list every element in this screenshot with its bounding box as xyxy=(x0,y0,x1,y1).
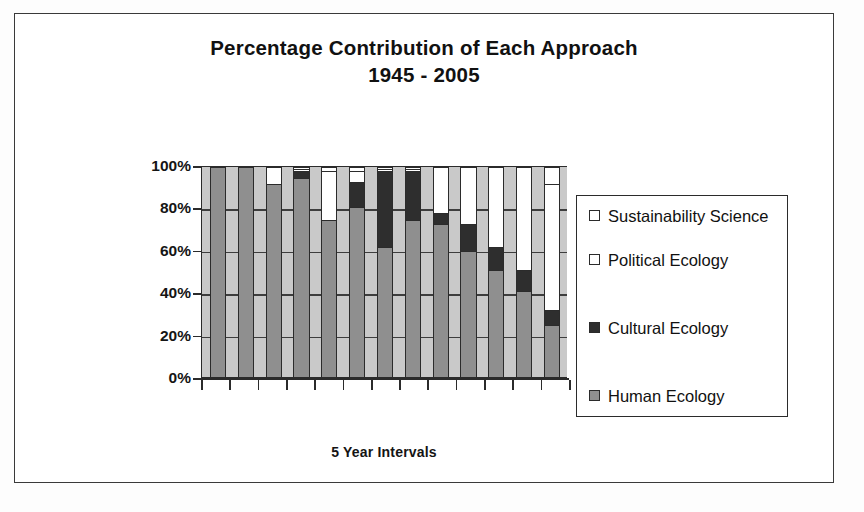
bar-segment-political xyxy=(545,184,559,310)
x-axis-tick xyxy=(314,380,316,390)
x-axis-tick xyxy=(456,380,458,390)
stacked-bar[interactable] xyxy=(433,167,449,377)
stacked-bar[interactable] xyxy=(516,167,532,377)
legend-swatch-icon xyxy=(589,254,600,265)
chart-frame: Percentage Contribution of Each Approach… xyxy=(14,13,834,483)
y-axis-tick-label: 100% xyxy=(113,157,191,175)
x-axis-tick xyxy=(371,380,373,390)
bar-segment-sustain xyxy=(545,167,559,184)
bar-slot xyxy=(510,167,538,377)
bar-slot xyxy=(343,167,371,377)
bar-slot xyxy=(455,167,483,377)
stacked-bar[interactable] xyxy=(460,167,476,377)
stacked-bar[interactable] xyxy=(405,167,421,377)
bar-slot xyxy=(232,167,260,377)
x-axis-tick xyxy=(399,380,401,390)
legend-label: Sustainability Science xyxy=(608,206,769,226)
legend-swatch-icon xyxy=(589,390,600,401)
stacked-bar[interactable] xyxy=(321,167,337,377)
bar-segment-human xyxy=(239,167,253,377)
x-axis-tick xyxy=(541,380,543,390)
chart-subtitle: 1945 - 2005 xyxy=(15,61,833,88)
bar-segment-human xyxy=(517,291,531,377)
stacked-bar[interactable] xyxy=(238,167,254,377)
bar-segment-cultural xyxy=(545,310,559,325)
stacked-bar[interactable] xyxy=(210,167,226,377)
scanned-page: Percentage Contribution of Each Approach… xyxy=(0,0,864,512)
y-axis-labels: 100%80%60%40%20%0% xyxy=(111,166,191,379)
stacked-bar[interactable] xyxy=(266,167,282,377)
bar-segment-human xyxy=(461,251,475,377)
x-axis-tick xyxy=(569,380,571,390)
y-axis-tick-label: 60% xyxy=(113,242,191,260)
bar-segment-political xyxy=(517,167,531,270)
bar-slot xyxy=(399,167,427,377)
bar-slot xyxy=(204,167,232,377)
x-axis-ticks xyxy=(201,380,569,391)
x-axis-tick xyxy=(229,380,231,390)
bar-series-group xyxy=(202,167,567,377)
legend-swatch-icon xyxy=(589,210,600,221)
chart-legend: Sustainability SciencePolitical EcologyC… xyxy=(576,195,788,417)
legend-item[interactable]: Cultural Ecology xyxy=(589,318,787,338)
stacked-bar[interactable] xyxy=(349,167,365,377)
legend-item[interactable]: Human Ecology xyxy=(589,386,787,406)
chart-title-block: Percentage Contribution of Each Approach… xyxy=(15,34,833,88)
bar-slot xyxy=(315,167,343,377)
legend-item[interactable]: Political Ecology xyxy=(589,250,787,270)
bar-segment-human xyxy=(378,247,392,377)
y-axis-tick-label: 40% xyxy=(113,284,191,302)
x-axis-tick xyxy=(258,380,260,390)
bar-segment-cultural xyxy=(461,224,475,251)
legend-label: Human Ecology xyxy=(608,386,724,406)
bar-segment-human xyxy=(294,178,308,378)
bar-segment-human xyxy=(322,220,336,378)
bar-segment-human xyxy=(406,220,420,378)
x-axis-title: 5 Year Intervals xyxy=(201,444,567,460)
bar-segment-human xyxy=(211,167,225,377)
bar-segment-political xyxy=(267,167,281,184)
bar-segment-cultural xyxy=(406,171,420,219)
bar-slot xyxy=(288,167,316,377)
bar-segment-cultural xyxy=(378,171,392,247)
stacked-bar[interactable] xyxy=(377,167,393,377)
x-axis-tick xyxy=(286,380,288,390)
y-axis-tick-label: 0% xyxy=(113,369,191,387)
bar-slot xyxy=(427,167,455,377)
stacked-bar[interactable] xyxy=(544,167,560,377)
x-axis-tick xyxy=(343,380,345,390)
legend-swatch-icon xyxy=(589,322,600,333)
chart-title: Percentage Contribution of Each Approach xyxy=(15,34,833,61)
bar-slot xyxy=(538,167,566,377)
bar-slot xyxy=(482,167,510,377)
bar-segment-cultural xyxy=(350,182,364,207)
bar-segment-cultural xyxy=(517,270,531,291)
bar-segment-human xyxy=(350,207,364,377)
bar-segment-human xyxy=(267,184,281,377)
plot-wrapper xyxy=(201,166,567,378)
x-axis-tick xyxy=(484,380,486,390)
legend-label: Cultural Ecology xyxy=(608,318,728,338)
bar-segment-cultural xyxy=(434,213,448,224)
bar-segment-human xyxy=(545,325,559,378)
bar-segment-political xyxy=(322,171,336,219)
x-axis-tick xyxy=(427,380,429,390)
stacked-bar[interactable] xyxy=(293,167,309,377)
bar-segment-human xyxy=(489,270,503,377)
stacked-bar[interactable] xyxy=(488,167,504,377)
y-axis-tick-label: 20% xyxy=(113,327,191,345)
legend-item[interactable]: Sustainability Science xyxy=(589,206,787,226)
bar-slot xyxy=(371,167,399,377)
bar-segment-political xyxy=(489,167,503,247)
x-axis-tick xyxy=(201,380,203,390)
y-axis-tick-label: 80% xyxy=(113,199,191,217)
bar-segment-human xyxy=(434,224,448,377)
x-axis-tick xyxy=(512,380,514,390)
bar-segment-political xyxy=(350,171,364,182)
bar-segment-cultural xyxy=(489,247,503,270)
legend-label: Political Ecology xyxy=(608,250,728,270)
bar-slot xyxy=(260,167,288,377)
plot-area xyxy=(201,166,567,378)
bar-segment-political xyxy=(461,167,475,224)
bar-segment-political xyxy=(434,167,448,213)
